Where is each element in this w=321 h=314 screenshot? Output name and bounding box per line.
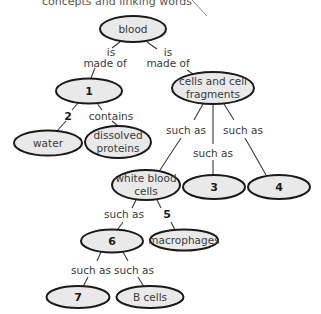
link-n6-bcells-a <box>123 252 128 261</box>
link-blood-cells-a <box>147 42 157 49</box>
decorative-line <box>192 0 207 16</box>
node-wbc-line2: cells <box>134 185 158 197</box>
node-macrophages-label: macrophages <box>148 234 219 246</box>
link-label-cells-n4: such as <box>223 124 263 136</box>
node-6: 6 <box>81 230 143 253</box>
link-label-blood-cells-line2: made of <box>146 57 190 69</box>
link-wbc-n6-a <box>132 200 136 208</box>
node-water-label: water <box>33 137 64 149</box>
node-3-label: 3 <box>210 181 218 194</box>
link-label-n1-water: 2 <box>64 110 72 123</box>
node-cells-line1: cells and cell <box>179 75 247 87</box>
link-cells-n4-a <box>224 104 234 120</box>
node-blood-label: blood <box>118 23 147 35</box>
node-6-label: 6 <box>108 235 116 248</box>
link-n6-n7-a <box>97 252 101 261</box>
node-b-cells: B cells <box>117 286 184 308</box>
link-cells-wbc-b <box>160 138 181 170</box>
link-label-cells-wbc: such as <box>166 124 206 136</box>
node-7-label: 7 <box>74 291 82 304</box>
header-partial-text: concepts and linking words <box>42 0 192 8</box>
link-n1-water-a <box>72 103 78 110</box>
link-cells-n4-b <box>245 138 266 175</box>
link-label-wbc-n6: such as <box>104 208 144 220</box>
node-cells-line2: fragments <box>186 88 240 100</box>
node-4: 4 <box>248 175 310 199</box>
node-1-label: 1 <box>85 85 93 98</box>
node-4-label: 4 <box>275 181 283 194</box>
node-cells-and-cell-fragments: cells and cell fragments <box>172 72 254 104</box>
link-label-n6-bcells: such as <box>114 264 154 276</box>
link-wbc-macro-a <box>157 200 161 208</box>
link-label-n1-proteins: contains <box>89 110 133 122</box>
link-label-blood-n1-line2: made of <box>83 57 127 69</box>
link-wbc-macro-b <box>171 222 175 230</box>
node-3: 3 <box>183 175 245 199</box>
node-water: water <box>14 131 82 156</box>
node-7: 7 <box>47 286 110 308</box>
link-blood-n1-b <box>91 68 95 78</box>
link-cells-wbc-a <box>194 104 203 120</box>
node-white-blood-cells: white blood cells <box>112 170 180 200</box>
node-dissolved-proteins: dissolved proteins <box>85 126 151 158</box>
node-proteins-line1: dissolved <box>93 129 142 141</box>
concept-map: concepts and linking words is made of is… <box>0 0 321 314</box>
link-label-cells-n3: such as <box>193 147 233 159</box>
node-macrophages: macrophages <box>148 230 219 251</box>
node-proteins-line2: proteins <box>97 142 140 154</box>
node-blood: blood <box>100 16 166 42</box>
node-bcells-label: B cells <box>133 291 167 303</box>
link-wbc-n6-b <box>118 222 123 229</box>
node-wbc-line1: white blood <box>115 172 176 184</box>
link-label-wbc-macrophages: 5 <box>163 208 171 221</box>
link-label-n6-n7: such as <box>71 264 111 276</box>
node-1: 1 <box>56 79 122 104</box>
